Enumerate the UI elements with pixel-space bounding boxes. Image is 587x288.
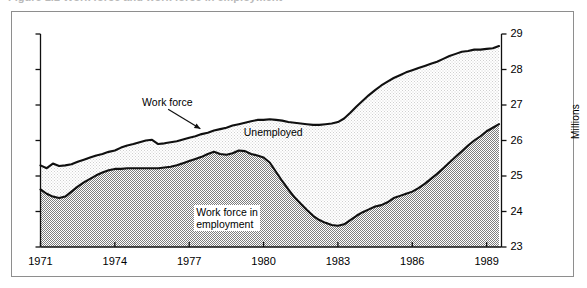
unemployed-label: Unemployed (244, 126, 303, 138)
y-axis-title: Millions (570, 104, 581, 139)
x-tick-label: 1983 (316, 255, 360, 267)
y-tick-label: 26 (511, 134, 523, 146)
annotation-line-2: employment (196, 218, 258, 230)
y-tick-label: 24 (511, 205, 523, 217)
annotation-line-1: Work force in (196, 206, 258, 218)
x-tick-label: 1974 (93, 255, 137, 267)
work-force-in-employment-label: Work force inemployment (194, 205, 260, 231)
y-tick-label: 23 (511, 240, 523, 252)
chart-canvas (0, 0, 587, 288)
work-force-label: Work force (142, 96, 193, 108)
x-tick-label: 1986 (390, 255, 434, 267)
y-tick-label: 25 (511, 169, 523, 181)
y-tick-label: 27 (511, 98, 523, 110)
figure-root: Figure 1.1 Work force and work force in … (0, 0, 587, 288)
y-ticks-right (502, 34, 507, 247)
work-force-leader-line (168, 109, 200, 129)
x-tick-label: 1989 (465, 255, 509, 267)
y-ticks-left (36, 34, 41, 247)
x-tick-label: 1980 (242, 255, 286, 267)
x-tick-label: 1971 (19, 255, 63, 267)
y-tick-label: 29 (511, 27, 523, 39)
y-tick-label: 28 (511, 63, 523, 75)
x-tick-label: 1977 (167, 255, 211, 267)
